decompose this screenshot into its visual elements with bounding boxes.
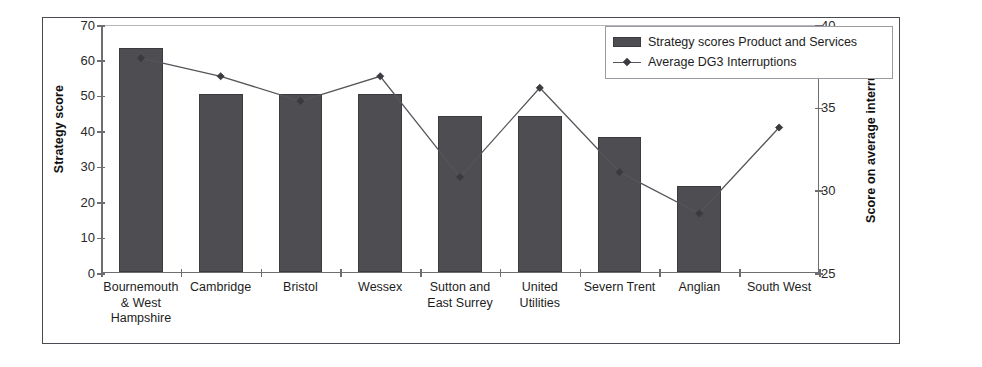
line-marker-swatch-icon — [613, 57, 641, 67]
y-axis-left-tick-label: 30 — [69, 160, 95, 173]
line-marker — [297, 97, 304, 104]
y-axis-left-tick-label: 50 — [69, 89, 95, 102]
legend-item-line: Average DG3 Interruptions — [613, 52, 885, 72]
legend: Strategy scores Product and Services Ave… — [605, 26, 893, 79]
y-axis-left-tick-label: 20 — [69, 196, 95, 209]
x-axis-category-label-line: Hampshire — [83, 311, 198, 327]
x-axis-category-label-line: Utilities — [482, 296, 597, 312]
bar-swatch-icon — [613, 37, 641, 47]
y-axis-left-tick-label: 40 — [69, 125, 95, 138]
y-axis-left-tick-label: 10 — [69, 231, 95, 244]
x-axis-category-labels: Bournemouth& WestHampshireCambridgeBrist… — [101, 280, 819, 340]
legend-label-line: Average DG3 Interruptions — [648, 55, 796, 69]
x-axis-tick — [819, 269, 821, 277]
y-axis-left-tick-label: 0 — [69, 267, 95, 280]
line-marker — [137, 54, 144, 61]
y-axis-right-tick-label: 35 — [821, 101, 847, 114]
x-axis-category-label-line: South West — [722, 280, 837, 296]
y-axis-right-tick-label: 25 — [821, 267, 847, 280]
x-axis-category-label-line: & West — [83, 296, 198, 312]
legend-label-bar: Strategy scores Product and Services — [648, 35, 857, 49]
chart-figure: Strategy score Score on average interrup… — [42, 17, 900, 344]
x-axis-category-label: South West — [722, 280, 837, 296]
y-axis-left-title: Strategy score — [52, 49, 66, 209]
y-axis-left-tick-label: 70 — [69, 19, 95, 32]
legend-item-bar: Strategy scores Product and Services — [613, 32, 885, 52]
y-axis-right-tick-label: 30 — [821, 184, 847, 197]
line-marker — [217, 73, 224, 80]
line-path — [141, 58, 779, 213]
y-axis-left-tick-label: 60 — [69, 54, 95, 67]
